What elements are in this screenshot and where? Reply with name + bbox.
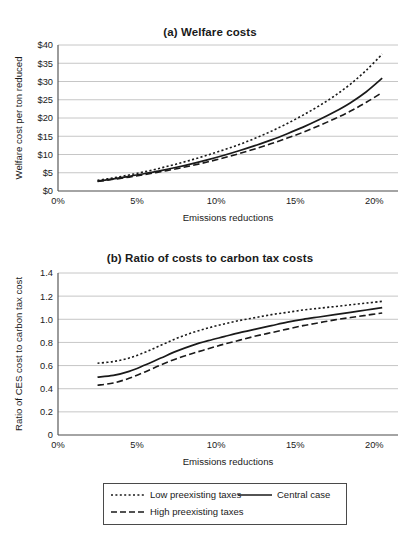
legend-swatch-dotted <box>111 490 145 500</box>
y-tick-label: 1.2 <box>40 292 53 302</box>
y-tick-label: 1.4 <box>40 268 53 278</box>
panel-b-title: (b) Ratio of costs to carbon tax costs <box>0 252 420 264</box>
y-tick-label: $15 <box>37 132 53 142</box>
x-tick-label: 10% <box>207 440 226 450</box>
y-axis-title: Ratio of CES cost to carbon tax cost <box>13 277 24 431</box>
y-tick-label: 0.6 <box>40 361 53 371</box>
figure-container: (a) Welfare costs $0$5$10$15$20$25$30$35… <box>0 0 420 536</box>
legend-label-low-preexisting-taxes: Low preexisting taxes <box>150 489 241 500</box>
panel-welfare-costs: (a) Welfare costs $0$5$10$15$20$25$30$35… <box>0 0 420 240</box>
legend-label-high-preexisting-taxes: High preexisting taxes <box>150 506 243 517</box>
legend-item-central-case: Central case <box>238 489 330 500</box>
series-line-high-preexisting-taxes <box>98 313 383 385</box>
x-tick-label: 15% <box>286 196 305 206</box>
legend-label-central-case: Central case <box>277 489 330 500</box>
x-tick-label: 5% <box>130 440 143 450</box>
y-tick-label: $25 <box>37 95 53 105</box>
y-tick-label: $0 <box>43 186 53 196</box>
y-axis-title: Welfare cost per ton reduced <box>13 56 24 179</box>
y-tick-label: $20 <box>37 113 53 123</box>
y-tick-label: $5 <box>43 168 53 178</box>
x-tick-label: 0% <box>51 196 64 206</box>
x-tick-label: 10% <box>207 196 226 206</box>
y-tick-label: 0 <box>48 430 53 440</box>
panel-a-title: (a) Welfare costs <box>0 26 420 38</box>
x-tick-label: 20% <box>365 440 384 450</box>
series-line-central-case <box>98 78 383 181</box>
legend-item-low-preexisting-taxes: Low preexisting taxes <box>111 489 241 500</box>
y-tick-label: $10 <box>37 150 53 160</box>
x-tick-label: 5% <box>130 196 143 206</box>
series-line-high-preexisting-taxes <box>98 92 383 181</box>
y-tick-label: 1.0 <box>40 315 53 325</box>
y-tick-label: $30 <box>37 77 53 87</box>
x-tick-label: 20% <box>365 196 384 206</box>
y-tick-label: 0.8 <box>40 338 53 348</box>
legend: Low preexisting taxes High preexisting t… <box>103 483 347 525</box>
series-line-low-preexisting-taxes <box>98 54 383 180</box>
y-tick-label: $40 <box>37 40 53 50</box>
legend-item-high-preexisting-taxes: High preexisting taxes <box>111 506 243 517</box>
x-tick-label: 0% <box>51 440 64 450</box>
y-tick-label: $35 <box>37 59 53 69</box>
y-tick-label: 0.2 <box>40 407 53 417</box>
x-tick-label: 15% <box>286 440 305 450</box>
x-axis-title: Emissions reductions <box>183 212 274 223</box>
x-axis-title: Emissions reductions <box>183 456 274 467</box>
y-tick-label: 0.4 <box>40 384 53 394</box>
legend-swatch-solid <box>238 490 272 500</box>
legend-swatch-dashed <box>111 507 145 517</box>
